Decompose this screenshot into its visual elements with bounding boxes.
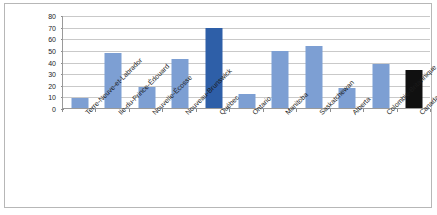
x-axis-label: Ile-du-Prince-Édouard xyxy=(117,111,123,117)
bar[interactable] xyxy=(238,94,255,108)
bar-slot xyxy=(364,16,397,108)
y-tick-label: 20 xyxy=(48,82,56,89)
bar[interactable] xyxy=(272,51,289,108)
y-tick-label: 0 xyxy=(52,106,56,113)
y-tick-label: 70 xyxy=(48,24,56,31)
x-axis-label: Colombie-Britannique xyxy=(385,111,391,117)
bar-slot xyxy=(264,16,297,108)
y-axis: 01020304050607080 xyxy=(35,16,59,109)
x-axis-label: Canada xyxy=(418,111,424,117)
x-axis-label: Terre-Neuve-et-Labrador xyxy=(84,111,90,117)
y-tick-label: 80 xyxy=(48,13,56,20)
y-tick-label: 10 xyxy=(48,94,56,101)
x-axis-label: Manitoba xyxy=(284,111,290,117)
x-axis-label: Nouveau-Brunswick xyxy=(184,111,190,117)
x-axis-label: Ontario xyxy=(251,111,257,117)
x-tick-mark xyxy=(430,109,431,112)
plot-area xyxy=(62,16,430,109)
x-axis-label: Québec xyxy=(218,111,224,117)
y-tick-label: 40 xyxy=(48,59,56,66)
x-axis-label: Nouvelle-Écosse xyxy=(151,111,157,117)
chart-frame: 01020304050607080 Terre-Neuve-et-Labrado… xyxy=(4,3,432,208)
y-tick-label: 60 xyxy=(48,36,56,43)
x-axis-labels: Terre-Neuve-et-LabradorIle-du-Prince-Édo… xyxy=(62,111,430,206)
x-axis-label: Alberta xyxy=(351,111,357,117)
y-tick-label: 50 xyxy=(48,47,56,54)
bar-slot xyxy=(63,16,96,108)
bar[interactable] xyxy=(305,46,322,108)
bar[interactable] xyxy=(372,64,389,108)
x-axis-label: Saskatchewan xyxy=(318,111,324,117)
bar[interactable] xyxy=(71,98,88,108)
y-tick-label: 30 xyxy=(48,71,56,78)
